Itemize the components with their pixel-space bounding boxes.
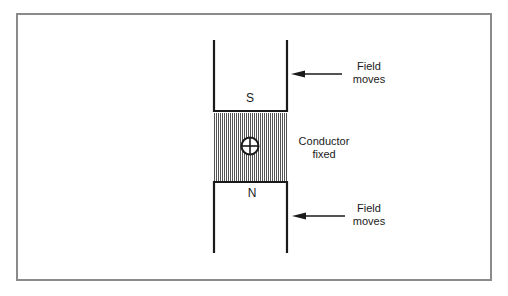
conductor-label-line2: fixed (312, 148, 335, 160)
s-pole-label: S (246, 91, 254, 105)
n-pole-label: N (248, 186, 257, 200)
top-arrow-label-line1: Field (357, 60, 381, 72)
magnetic-field-diagram: S N Field moves Conductor fixed Field mo… (0, 0, 508, 296)
top-arrow-label-line2: moves (353, 73, 386, 85)
top-field-arrow-icon (291, 71, 342, 78)
conductor-label-line1: Conductor (299, 135, 350, 147)
top-magnet-s-pole: S (214, 40, 287, 111)
bottom-arrow-label-line1: Field (357, 202, 381, 214)
bottom-magnet-n-pole: N (214, 182, 287, 253)
conductor-cross-circle-icon (242, 138, 259, 155)
bottom-arrow-label-line2: moves (353, 215, 386, 227)
bottom-field-arrow-icon (292, 213, 345, 220)
